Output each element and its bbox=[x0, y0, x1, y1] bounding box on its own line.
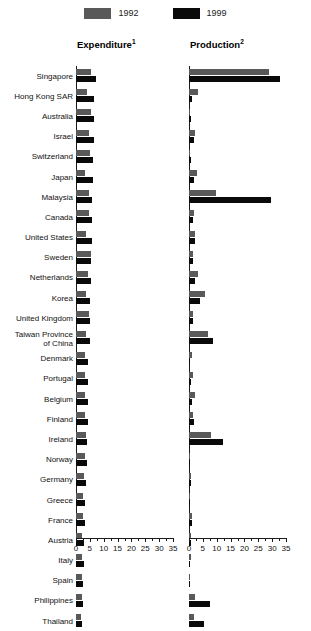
production-tick bbox=[231, 538, 232, 542]
expenditure-bar-group bbox=[76, 310, 173, 326]
category-label: Austria bbox=[0, 530, 73, 550]
expenditure-bar-1999 bbox=[76, 379, 88, 385]
production-bar-group bbox=[189, 310, 286, 326]
expenditure-bar-group bbox=[76, 593, 173, 609]
legend-label-1992: 1992 bbox=[118, 9, 138, 18]
production-tick bbox=[217, 538, 218, 542]
category-label: Belgium bbox=[0, 389, 73, 409]
production-bar-1999 bbox=[189, 258, 193, 264]
table-row: Denmark bbox=[0, 349, 311, 369]
production-bar-1999 bbox=[189, 238, 195, 244]
category-label: United States bbox=[0, 228, 73, 248]
production-bar-group bbox=[189, 68, 286, 84]
production-bar-1999 bbox=[189, 379, 191, 385]
production-bar-1992 bbox=[189, 271, 198, 277]
expenditure-bar-1999 bbox=[76, 197, 92, 203]
expenditure-bar-1999 bbox=[76, 137, 94, 143]
expenditure-tick-label: 35 bbox=[169, 544, 178, 553]
production-tick bbox=[258, 538, 259, 542]
expenditure-bar-1992 bbox=[76, 352, 85, 358]
production-minor-tick bbox=[210, 538, 211, 541]
expenditure-bar-group bbox=[76, 169, 173, 185]
production-bar-group bbox=[189, 129, 286, 145]
expenditure-bar-1999 bbox=[76, 298, 90, 304]
expenditure-bar-1992 bbox=[76, 271, 88, 277]
expenditure-bar-1999 bbox=[76, 238, 92, 244]
production-bar-1992 bbox=[189, 614, 194, 620]
table-row: Singapore bbox=[0, 66, 311, 86]
production-bar-1999 bbox=[189, 318, 193, 324]
production-tick bbox=[286, 538, 287, 542]
table-row: Taiwan Province of China bbox=[0, 328, 311, 348]
expenditure-bar-group bbox=[76, 108, 173, 124]
production-bar-1992 bbox=[189, 493, 190, 499]
production-bar-1999 bbox=[189, 197, 271, 203]
expenditure-bar-1992 bbox=[76, 291, 86, 297]
category-label: Spain bbox=[0, 571, 73, 591]
production-bar-1992 bbox=[189, 352, 192, 358]
table-row: Philippines bbox=[0, 591, 311, 611]
production-bar-1992 bbox=[189, 69, 269, 75]
production-bar-1992 bbox=[189, 372, 193, 378]
expenditure-tick bbox=[104, 538, 105, 542]
production-bar-group bbox=[189, 108, 286, 124]
production-minor-tick bbox=[238, 538, 239, 541]
expenditure-bar-group bbox=[76, 351, 173, 367]
expenditure-bar-1992 bbox=[76, 69, 91, 75]
expenditure-bar-1999 bbox=[76, 217, 92, 223]
production-bar-1999 bbox=[189, 439, 223, 445]
production-bar-1999 bbox=[189, 116, 191, 122]
table-row: Australia bbox=[0, 106, 311, 126]
production-bar-1992 bbox=[189, 130, 195, 136]
production-bar-1992 bbox=[189, 210, 194, 216]
expenditure-tick bbox=[118, 538, 119, 542]
expenditure-bar-1999 bbox=[76, 500, 85, 506]
expenditure-bar-1999 bbox=[76, 399, 88, 405]
production-bar-group bbox=[189, 411, 286, 427]
production-bar-1992 bbox=[189, 513, 192, 519]
production-minor-tick bbox=[251, 538, 252, 541]
production-minor-tick bbox=[265, 538, 266, 541]
production-tick-label: 5 bbox=[201, 544, 205, 553]
category-label: Ireland bbox=[0, 429, 73, 449]
expenditure-bar-group bbox=[76, 250, 173, 266]
production-bar-1999 bbox=[189, 419, 194, 425]
expenditure-bar-group bbox=[76, 68, 173, 84]
expenditure-bar-group bbox=[76, 492, 173, 508]
production-bar-group bbox=[189, 391, 286, 407]
expenditure-bar-group bbox=[76, 88, 173, 104]
production-bar-group bbox=[189, 573, 286, 589]
production-minor-tick bbox=[196, 538, 197, 541]
production-bar-group bbox=[189, 88, 286, 104]
production-bar-group bbox=[189, 613, 286, 629]
expenditure-minor-tick bbox=[138, 538, 139, 541]
expenditure-minor-tick bbox=[83, 538, 84, 541]
category-label: Malaysia bbox=[0, 187, 73, 207]
category-label: Hong Kong SAR bbox=[0, 86, 73, 106]
production-bar-1992 bbox=[189, 392, 195, 398]
production-bar-1999 bbox=[189, 137, 194, 143]
table-row: France bbox=[0, 510, 311, 530]
expenditure-bar-1992 bbox=[76, 251, 91, 257]
category-label: Italy bbox=[0, 551, 73, 571]
production-bar-group bbox=[189, 209, 286, 225]
production-bar-1992 bbox=[189, 574, 190, 580]
legend-swatch-1992 bbox=[84, 8, 111, 19]
legend-item-1992: 1992 bbox=[84, 8, 138, 19]
production-bar-group bbox=[189, 250, 286, 266]
production-bar-1992 bbox=[189, 291, 205, 297]
production-bar-group bbox=[189, 512, 286, 528]
production-bar-1992 bbox=[189, 331, 208, 337]
category-label: Australia bbox=[0, 106, 73, 126]
table-row: Greece bbox=[0, 490, 311, 510]
production-bar-group bbox=[189, 593, 286, 609]
table-row: Hong Kong SAR bbox=[0, 86, 311, 106]
production-x-axis: 05101520253035 bbox=[189, 538, 286, 564]
expenditure-minor-tick bbox=[97, 538, 98, 541]
expenditure-bar-1999 bbox=[76, 359, 88, 365]
expenditure-tick bbox=[76, 538, 77, 542]
expenditure-tick-label: 10 bbox=[99, 544, 108, 553]
expenditure-minor-tick bbox=[125, 538, 126, 541]
expenditure-bar-1992 bbox=[76, 89, 87, 95]
panel-titles: Expenditure1 Production2 bbox=[0, 38, 311, 52]
